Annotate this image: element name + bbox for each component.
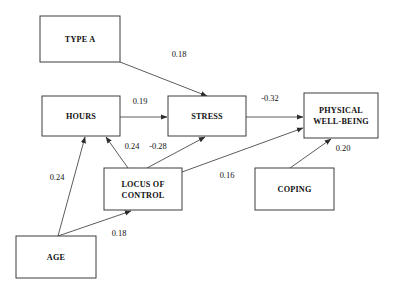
path-diagram-svg: TYPE AHOURSSTRESSPHYSICALWELL-BEINGLOCUS… bbox=[0, 0, 393, 292]
node-label-pwb: WELL-BEING bbox=[313, 117, 369, 126]
node-label-locus: CONTROL bbox=[122, 191, 165, 200]
coefficient-label-locus-to-hours: 0.24 bbox=[125, 142, 140, 151]
node-stress[interactable]: STRESS bbox=[168, 96, 246, 136]
node-label-hours: HOURS bbox=[66, 112, 96, 121]
node-label-locus: LOCUS OF bbox=[121, 180, 164, 189]
coefficient-label-type_a-to-stress: 0.18 bbox=[172, 50, 187, 59]
path-arrow-type_a-to-stress bbox=[120, 62, 207, 96]
node-box-pwb[interactable] bbox=[304, 93, 378, 138]
node-label-type_a: TYPE A bbox=[65, 35, 96, 44]
node-hours[interactable]: HOURS bbox=[42, 96, 120, 136]
coefficient-label-stress-to-pwb: -0.32 bbox=[261, 94, 278, 103]
node-coping[interactable]: COPING bbox=[255, 168, 334, 210]
path-arrow-age-to-hours bbox=[58, 137, 85, 236]
node-label-coping: COPING bbox=[278, 185, 312, 194]
node-label-age: AGE bbox=[47, 253, 66, 262]
node-box-locus[interactable] bbox=[104, 168, 182, 210]
node-label-stress: STRESS bbox=[191, 112, 223, 121]
path-diagram-canvas: TYPE AHOURSSTRESSPHYSICALWELL-BEINGLOCUS… bbox=[0, 0, 393, 292]
node-type_a[interactable]: TYPE A bbox=[40, 16, 120, 62]
nodes-layer: TYPE AHOURSSTRESSPHYSICALWELL-BEINGLOCUS… bbox=[16, 16, 378, 278]
coefficient-label-coping-to-pwb: 0.20 bbox=[336, 144, 351, 153]
node-pwb[interactable]: PHYSICALWELL-BEING bbox=[304, 93, 378, 138]
coefficient-label-locus-to-stress: -0.28 bbox=[149, 142, 166, 151]
node-locus[interactable]: LOCUS OFCONTROL bbox=[104, 168, 182, 210]
coefficient-label-hours-to-stress: 0.19 bbox=[133, 97, 148, 106]
coefficient-label-age-to-locus: 0.18 bbox=[112, 229, 127, 238]
node-label-pwb: PHYSICAL bbox=[319, 106, 363, 115]
path-arrow-coping-to-pwb bbox=[290, 139, 331, 168]
node-age[interactable]: AGE bbox=[16, 236, 96, 278]
coefficient-label-locus-to-pwb: 0.16 bbox=[220, 171, 235, 180]
coefficient-label-age-to-hours: 0.24 bbox=[50, 173, 65, 182]
